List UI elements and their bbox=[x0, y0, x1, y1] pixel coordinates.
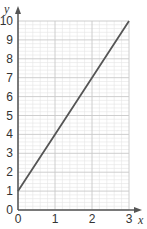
y-tick-label: 9 bbox=[6, 33, 13, 47]
y-tick-label: 0 bbox=[6, 203, 13, 217]
x-tick-label: 2 bbox=[89, 212, 96, 226]
y-tick-label: 10 bbox=[0, 14, 13, 28]
y-tick-label: 6 bbox=[6, 90, 13, 104]
y-tick-label: 5 bbox=[6, 109, 13, 123]
x-axis-label: x bbox=[137, 213, 144, 227]
data-series bbox=[18, 21, 129, 191]
x-tick-label: 3 bbox=[126, 212, 133, 226]
x-tick-label: 0 bbox=[15, 212, 22, 226]
y-tick-label: 2 bbox=[6, 165, 13, 179]
y-axis-label: y bbox=[3, 2, 10, 16]
series-line bbox=[18, 21, 129, 191]
y-tick-label: 1 bbox=[6, 184, 13, 198]
x-tick-label: 1 bbox=[52, 212, 59, 226]
line-chart: 0123012345678910 y x bbox=[0, 0, 147, 229]
axes bbox=[15, 6, 142, 213]
y-tick-label: 8 bbox=[6, 52, 13, 66]
grid-major bbox=[18, 21, 129, 210]
y-axis-arrow-icon bbox=[15, 6, 21, 14]
y-tick-label: 7 bbox=[6, 71, 13, 85]
y-tick-label: 3 bbox=[6, 146, 13, 160]
y-tick-label: 4 bbox=[6, 127, 13, 141]
